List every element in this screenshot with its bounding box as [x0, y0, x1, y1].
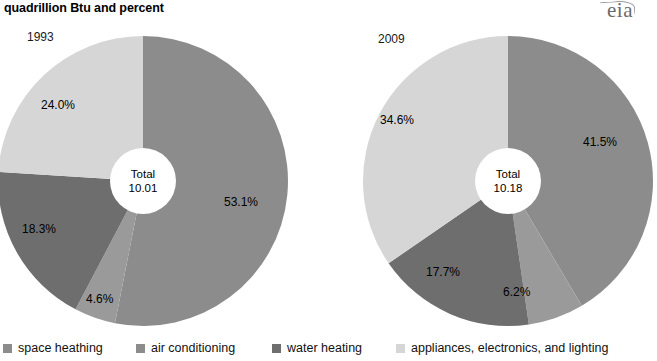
legend-label-water-heating: water heating — [287, 341, 362, 355]
slice-label-air-conditioning-1993: 4.6% — [86, 292, 113, 306]
legend-item-air-conditioning: air conditioning — [136, 341, 235, 355]
pie-center-total-value-2009: 10.18 — [473, 182, 543, 196]
slice-label-air-conditioning-2009: 6.2% — [503, 285, 530, 299]
slice-label-appliances-2009: 34.6% — [380, 113, 414, 127]
pie-center-total-1993: Total 10.01 — [108, 168, 178, 195]
slice-label-water-heating-2009: 17.7% — [426, 265, 460, 279]
legend-swatch-icon-appliances — [396, 344, 405, 353]
legend-swatch-icon-air-conditioning — [136, 344, 145, 353]
pie-center-total-value-1993: 10.01 — [108, 182, 178, 196]
slice-label-appliances-1993: 24.0% — [41, 98, 75, 112]
legend-label-air-conditioning: air conditioning — [151, 341, 235, 355]
legend-item-space-heating: space heathing — [3, 341, 103, 355]
legend-item-water-heating: water heating — [272, 341, 362, 355]
pie-center-total-2009: Total 10.18 — [473, 168, 543, 195]
pie-center-total-caption-1993: Total — [108, 168, 178, 182]
pie-center-total-caption-2009: Total — [473, 168, 543, 182]
pie-chart-1993: 1993 Total 10.01 53.1% 4.6% 18.3% 24.0% — [0, 0, 320, 336]
slice-label-water-heating-1993: 18.3% — [22, 222, 56, 236]
slice-label-space-heating-2009: 41.5% — [583, 135, 617, 149]
legend-label-space-heating: space heathing — [18, 341, 103, 355]
legend-swatch-icon-space-heating — [3, 344, 12, 353]
legend: space heathing air conditioning water he… — [0, 341, 639, 361]
legend-swatch-icon-water-heating — [272, 344, 281, 353]
pie-chart-2009: 2009 Total 10.18 41.5% 6.2% 17.7% 34.6% — [348, 0, 657, 336]
legend-item-appliances: appliances, electronics, and lighting — [396, 341, 608, 355]
slice-label-space-heating-1993: 53.1% — [224, 195, 258, 209]
legend-label-appliances: appliances, electronics, and lighting — [411, 341, 608, 355]
